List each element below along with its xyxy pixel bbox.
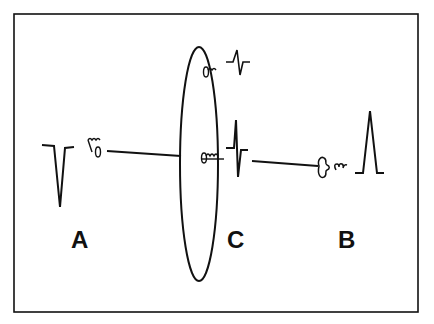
lead-wire-b bbox=[252, 161, 318, 166]
electrode-c-middle-icon bbox=[202, 153, 225, 163]
frame-border bbox=[14, 14, 418, 312]
lead-wire-a bbox=[107, 151, 181, 156]
waveform-a-icon bbox=[42, 145, 74, 207]
label-c: C bbox=[227, 228, 244, 252]
electrode-a-icon bbox=[88, 139, 101, 158]
diagram-canvas bbox=[0, 0, 434, 324]
waveform-c-middle-icon bbox=[226, 120, 248, 177]
label-a: A bbox=[71, 228, 88, 252]
waveform-b-icon bbox=[355, 111, 384, 173]
electrode-b-icon bbox=[318, 157, 347, 177]
label-b: B bbox=[338, 228, 355, 252]
waveform-c-top-icon bbox=[226, 50, 250, 75]
wavefront-ellipse bbox=[180, 47, 218, 281]
